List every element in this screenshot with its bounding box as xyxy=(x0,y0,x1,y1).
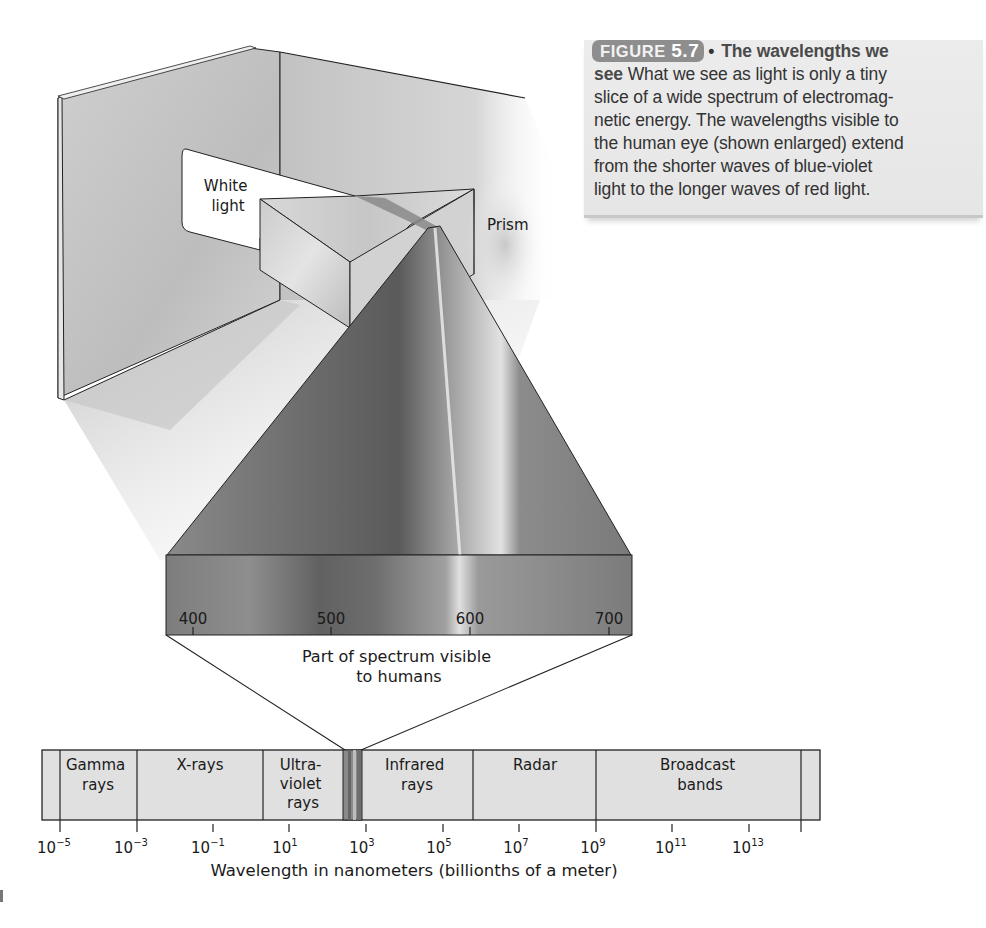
figure-caption: FIGURE 5.7• The wavelengths we see What … xyxy=(584,40,983,218)
tick-500: 500 xyxy=(317,610,346,628)
tick-700: 700 xyxy=(595,610,624,628)
em-spectrum-bar: Gamma rays X-rays Ultra- violet rays Inf… xyxy=(37,750,820,880)
axis-tick-label: 10−5 xyxy=(37,837,71,857)
axis-tick-label: 1011 xyxy=(655,837,687,857)
axis-tick-label: 101 xyxy=(272,837,297,857)
axis-tick-label: 105 xyxy=(426,837,451,857)
caption-line-4: netic energy. The wavelengths visible to xyxy=(594,109,986,132)
band-xrays: X-rays xyxy=(177,756,224,774)
visible-caption: Part of spectrum visible to humans xyxy=(302,647,496,686)
caption-line-3: slice of a wide spectrum of electromag- xyxy=(594,86,986,109)
axis-tick-label: 10−1 xyxy=(191,837,225,857)
tick-400: 400 xyxy=(179,610,208,628)
figure-title: The wavelengths we xyxy=(721,41,888,61)
axis-label: Wavelength in nanometers (billionths of … xyxy=(210,861,617,880)
caption-line-5: the human eye (shown enlarged) extend xyxy=(594,132,986,155)
axis-tick-label: 10−3 xyxy=(114,837,148,857)
bullet-icon: • xyxy=(708,41,714,61)
caption-line-7: light to the longer waves of red light. xyxy=(594,178,986,201)
caption-line-1: FIGURE 5.7• The wavelengths we xyxy=(594,40,986,63)
axis-ticks xyxy=(213,824,749,832)
axis-tick-labels: 10−5 10−3 10−1 101 103 105 107 109 1011 … xyxy=(37,837,764,857)
band-radar: Radar xyxy=(513,756,558,774)
axis-tick-label: 1013 xyxy=(732,837,764,857)
prism-label: Prism xyxy=(487,216,529,234)
axis-tick-label: 107 xyxy=(503,837,528,857)
visible-strip xyxy=(343,750,362,820)
visible-spectrum-band: 400 500 600 700 Part of spectrum visible… xyxy=(166,555,632,750)
caption-text: FIGURE 5.7• The wavelengths we see What … xyxy=(594,40,986,201)
page-edge-mark xyxy=(0,890,3,902)
caption-line-6: from the shorter waves of blue-violet xyxy=(594,155,986,178)
axis-tick-label: 109 xyxy=(580,837,605,857)
caption-line-2: see What we see as light is only a tiny xyxy=(594,63,986,86)
figure-badge: FIGURE 5.7 xyxy=(592,40,704,62)
tick-600: 600 xyxy=(456,610,485,628)
axis-tick-label: 103 xyxy=(349,837,374,857)
